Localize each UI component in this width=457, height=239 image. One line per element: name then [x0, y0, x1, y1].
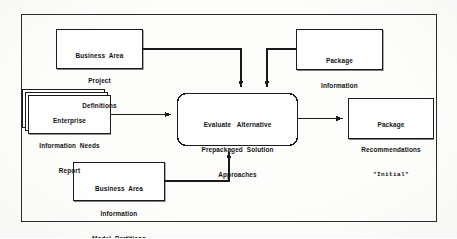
diagram-page: Business Area Project Definitions Packag… — [0, 0, 457, 238]
label-line: Evaluate Alternative — [177, 121, 298, 129]
label-line: Information Needs — [28, 142, 111, 150]
label-line: Business Area — [56, 52, 143, 60]
label-line-quoted: "Initial" — [348, 171, 434, 179]
label-line: Package — [296, 57, 383, 65]
label-line: Information — [73, 210, 165, 218]
label-line: Model Partitions — [73, 235, 165, 239]
label-line: Business Area — [73, 185, 165, 193]
label-line: Enterprise — [28, 117, 111, 125]
label-package-information: Package Information — [296, 41, 383, 107]
flow-package-information-to-process — [267, 49, 297, 87]
label-line: Package — [348, 121, 434, 129]
label-line: Project — [56, 77, 143, 85]
label-line: Prepackaged Solution — [177, 146, 298, 154]
label-evaluate-alternative-prepackaged-solution-approaches: Evaluate Alternative Prepackaged Solutio… — [177, 105, 298, 195]
label-package-recommendations-initial: Package Recommendations "Initial" — [348, 105, 434, 195]
flow-project-definitions-to-process — [143, 49, 241, 87]
label-line: Recommendations — [348, 146, 434, 154]
label-business-area-information-model-partitions: Business Area Information Model Partitio… — [73, 169, 165, 238]
label-line: Information — [296, 82, 383, 90]
label-line: Approaches — [177, 171, 298, 179]
